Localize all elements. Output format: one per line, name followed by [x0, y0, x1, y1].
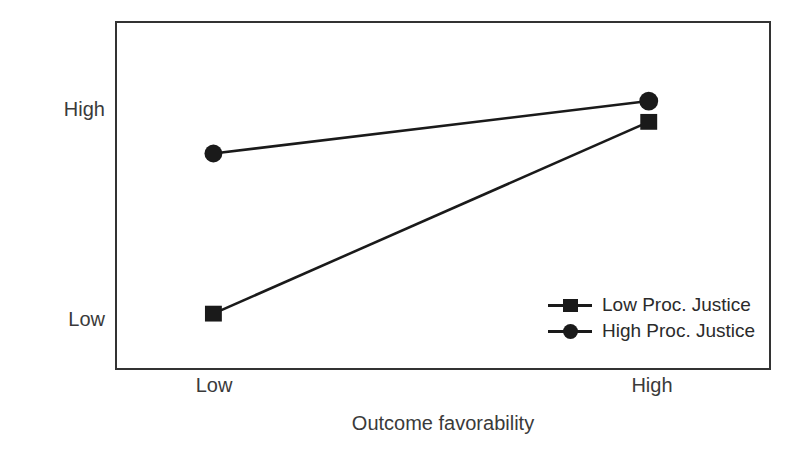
series-line-high-proc-justice [213, 101, 648, 153]
chart-figure: Favorability of participant's reactions … [0, 0, 799, 461]
square-marker-icon [548, 295, 592, 315]
circle-marker-icon [548, 321, 592, 341]
series-line-low-proc-justice [213, 122, 648, 314]
y-tick-label-low: Low [15, 308, 117, 331]
data-point-high-proc-justice-low [204, 145, 222, 163]
x-tick-label-high: High [592, 374, 712, 397]
x-axis-title: Outcome favorability [115, 412, 771, 435]
data-point-high-proc-justice-high [639, 92, 658, 111]
data-point-low-proc-justice-high [640, 114, 657, 130]
x-tick-label-low: Low [154, 374, 274, 397]
legend-label-high-proc-justice: High Proc. Justice [592, 320, 755, 342]
legend-item-low-proc-justice: Low Proc. Justice [548, 294, 755, 316]
data-point-low-proc-justice-low [205, 306, 222, 322]
legend: Low Proc. Justice High Proc. Justice [548, 294, 755, 342]
legend-item-high-proc-justice: High Proc. Justice [548, 320, 755, 342]
legend-label-low-proc-justice: Low Proc. Justice [592, 294, 751, 316]
y-tick-label-high: High [15, 98, 117, 121]
